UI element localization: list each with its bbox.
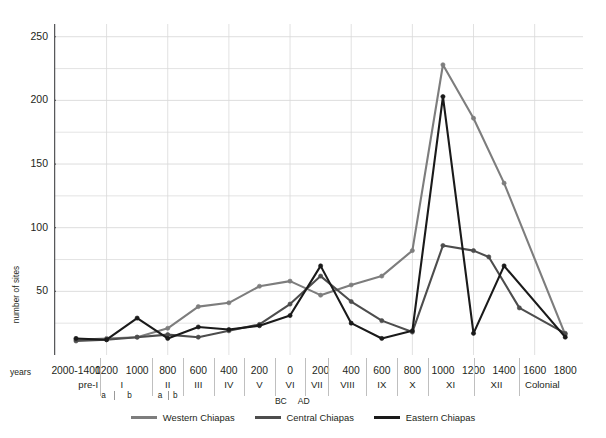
data-point-central-chiapas [487,255,491,259]
period-label: VI [285,379,294,390]
era-labels: BCAD [0,396,606,408]
legend-swatch [374,416,400,419]
y-tick-label: 50 [14,284,48,296]
data-point-eastern-chiapas [349,321,353,325]
period-label: V [256,379,262,390]
period-label: XI [446,379,455,390]
data-point-eastern-chiapas [74,336,78,340]
legend-label: Western Chiapas [163,412,235,423]
data-point-eastern-chiapas [227,327,231,331]
data-point-eastern-chiapas [502,264,506,268]
data-point-western-chiapas [441,63,445,67]
period-band-divider [519,358,520,396]
x-tick-label: 400 [220,365,237,376]
period-label: VIII [340,379,354,390]
data-point-eastern-chiapas [257,324,261,328]
y-tick-label: 100 [14,221,48,233]
line-chart-svg [54,24,583,355]
data-point-eastern-chiapas [135,316,139,320]
period-label: IX [377,379,386,390]
period-label: Colonial [525,379,560,390]
legend-label: Central Chiapas [287,412,354,423]
series-line-western-chiapas [76,65,565,340]
period-band-divider [366,358,367,396]
period-label: IV [224,379,233,390]
legend-label: Eastern Chiapas [406,412,475,423]
period-band-divider [328,358,329,396]
x-tick-label: 1200 [95,365,118,376]
data-point-western-chiapas [227,301,231,305]
data-point-central-chiapas [196,335,200,339]
period-band-divider [305,358,306,396]
period-band-divider [474,358,475,396]
data-point-central-chiapas [517,306,521,310]
data-point-central-chiapas [380,319,384,323]
data-point-western-chiapas [349,283,353,287]
data-point-western-chiapas [502,181,506,185]
x-tick-label: 200 [312,365,329,376]
data-point-eastern-chiapas [380,336,384,340]
period-band-divider [183,358,184,396]
data-point-eastern-chiapas [166,336,170,340]
period-label: II [165,379,170,390]
legend-item[interactable]: Eastern Chiapas [374,412,475,423]
data-point-western-chiapas [380,274,384,278]
period-label: I [121,379,124,390]
data-point-eastern-chiapas [563,335,567,339]
period-label: X [409,379,415,390]
data-point-western-chiapas [166,326,170,330]
chart-root: number of sites 50100150200250 years 200… [0,0,606,438]
data-point-western-chiapas [196,305,200,309]
plot-area [54,24,583,355]
data-point-eastern-chiapas [196,325,200,329]
x-tick-label: 600 [190,365,207,376]
data-point-central-chiapas [349,299,353,303]
period-band-divider [275,358,276,396]
y-tick-label: 200 [14,93,48,105]
x-tick-label: 200 [251,365,268,376]
period-band-divider [100,358,101,396]
x-tick-label: 1800 [554,365,577,376]
data-point-central-chiapas [135,335,139,339]
x-tick-label: 800 [404,365,421,376]
data-point-eastern-chiapas [410,329,414,333]
data-point-western-chiapas [257,284,261,288]
period-band-divider [214,358,215,396]
legend-item[interactable]: Central Chiapas [255,412,354,423]
x-tick-label: 800 [159,365,176,376]
data-point-western-chiapas [288,279,292,283]
period-label: VII [311,379,323,390]
data-point-eastern-chiapas [319,264,323,268]
x-tick-label: 1000 [126,365,149,376]
period-label: III [194,379,202,390]
x-tick-label: 2000-1400 [51,365,100,376]
x-tick-label: 1600 [523,365,546,376]
data-point-eastern-chiapas [288,313,292,317]
period-band-divider [244,358,245,396]
period-band-divider [428,358,429,396]
data-point-western-chiapas [471,116,475,120]
y-tick-label: 150 [14,157,48,169]
x-tick-label: 600 [373,365,390,376]
x-axis-tick-labels: 2000-14001200100080060040020002004006008… [0,365,606,379]
data-point-western-chiapas [319,293,323,297]
legend-swatch [131,416,157,419]
data-point-central-chiapas [288,302,292,306]
data-point-eastern-chiapas [441,94,445,98]
x-tick-label: 1400 [493,365,516,376]
data-point-central-chiapas [319,274,323,278]
era-label: BC [275,396,287,406]
period-band-divider [397,358,398,396]
data-point-central-chiapas [441,243,445,247]
data-point-western-chiapas [410,249,414,253]
y-tick-label: 250 [14,30,48,42]
era-label: AD [298,396,310,406]
x-tick-label: 0 [287,365,293,376]
data-point-eastern-chiapas [471,331,475,335]
chart-legend: Western ChiapasCentral ChiapasEastern Ch… [0,408,606,426]
series-line-eastern-chiapas [76,97,565,340]
legend-item[interactable]: Western Chiapas [131,412,235,423]
period-label: pre-I [78,379,98,390]
x-tick-label: 1000 [431,365,454,376]
data-point-eastern-chiapas [104,338,108,342]
